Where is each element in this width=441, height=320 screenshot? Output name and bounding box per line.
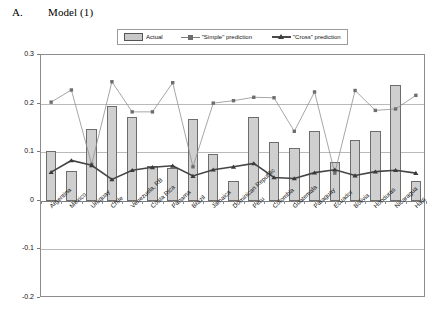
y-axis-tick-label: 0.1 xyxy=(0,147,34,154)
marker-point xyxy=(232,99,235,102)
marker-point xyxy=(353,89,356,92)
legend-item-actual: Actual xyxy=(124,33,163,41)
legend-triangle-marker-icon xyxy=(272,34,291,41)
marker-point xyxy=(130,110,133,113)
chart-legend: Actual "Simple" prediction "Cross" predi… xyxy=(117,29,348,45)
marker-point xyxy=(414,94,417,97)
y-axis-tick-label: 0 xyxy=(0,196,34,203)
marker-point xyxy=(374,109,377,112)
marker-point xyxy=(394,107,397,110)
y-axis-tick-label: 0.2 xyxy=(0,99,34,106)
marker-point xyxy=(252,96,255,99)
panel-letter: A. xyxy=(12,6,48,18)
legend-item-simple: "Simple" prediction xyxy=(181,34,252,41)
y-axis-tick-mark xyxy=(37,151,40,152)
legend-label-actual: Actual xyxy=(146,34,163,40)
legend-label-simple: "Simple" prediction xyxy=(202,34,252,40)
legend-square-marker-icon xyxy=(181,34,200,41)
page-title: Model (1) xyxy=(48,6,93,18)
marker-point xyxy=(212,101,215,104)
line-cross-prediction xyxy=(51,160,416,179)
legend-item-cross: "Cross" prediction xyxy=(272,34,341,41)
marker-point xyxy=(151,110,154,113)
marker-point xyxy=(171,81,174,84)
legend-bar-swatch-icon xyxy=(124,33,143,41)
panel-heading: A.Model (1) xyxy=(12,6,93,18)
y-axis-tick-mark xyxy=(37,54,40,55)
y-axis-tick-label: 0.3 xyxy=(0,50,34,57)
y-axis-tick-mark xyxy=(37,200,40,201)
marker-point xyxy=(191,165,194,168)
y-axis-tick-mark xyxy=(37,103,40,104)
figure-panel: A.Model (1) Actual "Simple" prediction "… xyxy=(0,0,441,320)
marker-point xyxy=(313,90,316,93)
y-axis-tick-label: -0.2 xyxy=(0,293,34,300)
y-axis-tick-mark xyxy=(37,297,40,298)
line-simple-prediction xyxy=(51,82,416,173)
x-axis-labels: ArgentinaMexicoUruguayChileVenezuela, RB… xyxy=(40,202,425,262)
marker-point xyxy=(49,100,52,103)
marker-point xyxy=(333,171,336,174)
marker-point xyxy=(70,88,73,91)
marker-point xyxy=(110,80,113,83)
marker-point xyxy=(293,130,296,133)
y-axis-tick-label: -0.1 xyxy=(0,244,34,251)
legend-label-cross: "Cross" prediction xyxy=(293,34,341,40)
marker-point xyxy=(272,96,275,99)
